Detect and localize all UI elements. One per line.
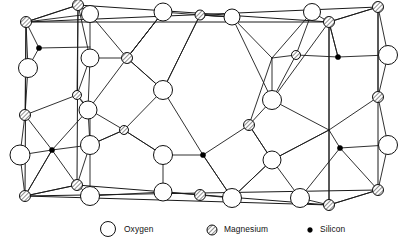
bond-line <box>232 17 272 58</box>
bond-line <box>163 15 200 90</box>
oxygen-atom <box>379 136 398 155</box>
bond-line <box>203 125 249 155</box>
oxygen-atom <box>154 146 173 165</box>
magnesium-atom <box>73 0 84 11</box>
bond-line <box>296 55 338 57</box>
magnesium-atom <box>122 53 133 64</box>
oxygen-atoms <box>10 3 398 208</box>
oxygen-atom <box>154 3 172 21</box>
legend-oxygen-icon <box>101 222 116 237</box>
magnesium-atom <box>324 200 335 211</box>
bond-line <box>329 130 340 148</box>
magnesium-atom <box>21 17 32 28</box>
legend-silicon-label: Silicon <box>320 224 346 234</box>
magnesium-atom <box>20 191 31 202</box>
oxygen-atom <box>19 59 38 78</box>
magnesium-atom <box>73 91 82 100</box>
bond-line <box>329 190 378 205</box>
legend-magnesium-icon <box>207 225 217 235</box>
magnesium-atom <box>120 126 129 135</box>
bond-line <box>232 17 272 100</box>
silicon-atom <box>337 145 342 150</box>
oxygen-atom <box>81 187 100 206</box>
bond-line <box>25 185 77 196</box>
oxygen-atom <box>82 6 99 23</box>
atomic-bonds <box>20 5 388 205</box>
silicon-atom <box>49 147 54 152</box>
oxygen-atom <box>223 189 242 208</box>
magnesium-atom <box>244 120 255 131</box>
bond-line <box>52 150 77 185</box>
bond-line <box>26 5 78 22</box>
oxygen-atom <box>379 46 398 65</box>
magnesium-atom <box>373 92 384 103</box>
oxygen-atom <box>79 101 97 119</box>
oxygen-atom <box>154 81 173 100</box>
magnesium-atom <box>373 185 384 196</box>
oxygen-atom <box>291 189 310 208</box>
oxygen-atom <box>224 9 240 25</box>
legend-silicon-icon <box>308 228 313 233</box>
magnesium-atom <box>373 2 384 13</box>
magnesium-atom <box>324 17 335 28</box>
oxygen-atom <box>154 183 172 201</box>
bond-line <box>25 115 52 150</box>
crystal-structure-figure: OxygenMagnesiumSilicon <box>0 0 405 244</box>
oxygen-atom <box>263 151 281 169</box>
oxygen-atom <box>81 49 99 67</box>
legend-magnesium-label: Magnesium <box>224 224 268 234</box>
bond-line <box>329 97 378 130</box>
magnesium-atom <box>195 190 206 201</box>
magnesium-atom <box>20 110 31 121</box>
bond-line <box>163 90 203 155</box>
silicon-atom <box>335 54 340 59</box>
magnesium-atom <box>292 51 301 60</box>
bond-line <box>272 130 329 160</box>
magnesium-atom <box>72 180 83 191</box>
oxygen-atom <box>263 91 282 110</box>
legend-oxygen-label: Oxygen <box>124 224 154 234</box>
structure-diagram: OxygenMagnesiumSilicon <box>0 0 405 244</box>
bond-line <box>25 95 77 115</box>
silicon-atom <box>36 45 41 50</box>
cell-edge <box>25 196 329 205</box>
oxygen-atom <box>81 136 100 155</box>
magnesium-atom <box>195 10 205 20</box>
silicon-atom <box>200 152 205 157</box>
legend: OxygenMagnesiumSilicon <box>101 222 346 237</box>
bond-line <box>340 148 378 190</box>
oxygen-atom <box>304 4 321 21</box>
bond-line <box>272 22 329 100</box>
bond-line <box>39 47 90 48</box>
oxygen-atom <box>10 145 30 165</box>
